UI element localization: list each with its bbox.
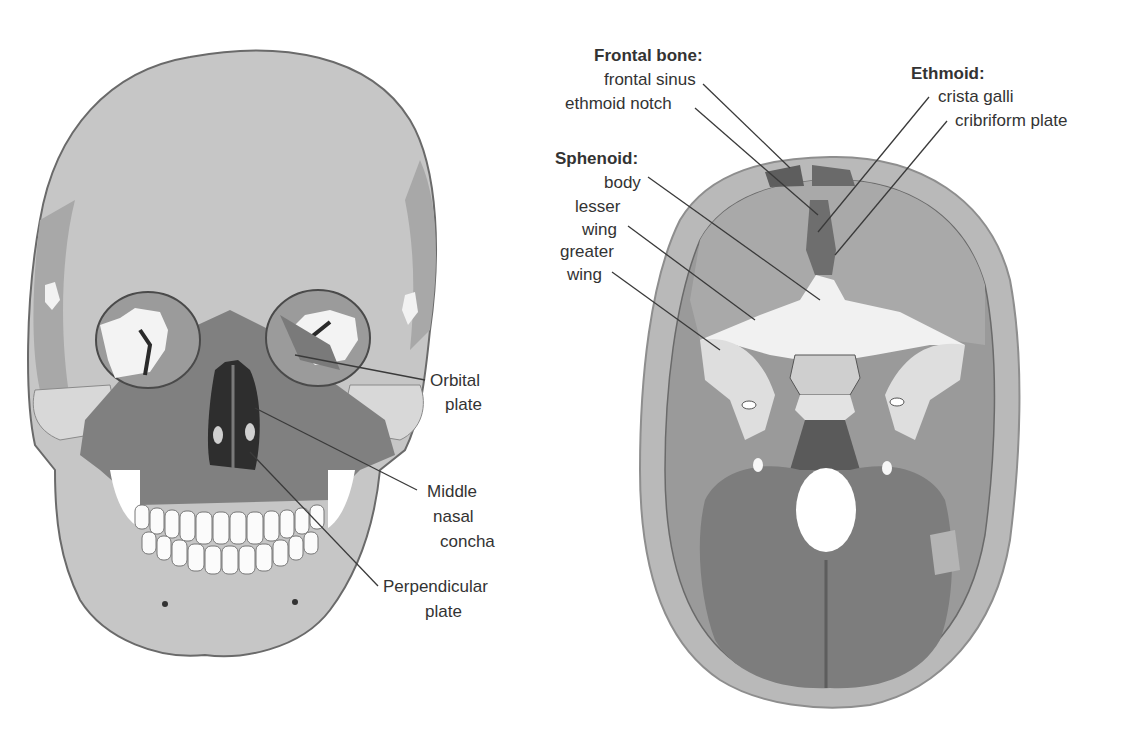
label-ethmoid-notch: ethmoid notch	[565, 94, 672, 113]
label-frontal-sinus: frontal sinus	[604, 70, 696, 89]
label-lesser-wing-2: wing	[581, 220, 617, 239]
anatomy-figure: Orbital plate Middle nasal concha Perpen…	[0, 0, 1124, 733]
label-orbital-plate: Orbital plate	[430, 371, 485, 414]
label-perpendicular-plate: Perpendicular plate	[383, 577, 493, 621]
header-sphenoid: Sphenoid:	[555, 149, 638, 168]
header-ethmoid: Ethmoid:	[911, 64, 985, 83]
label-crista-galli: crista galli	[938, 87, 1014, 106]
caption-cutoff	[0, 0, 1124, 3]
cranial-floor-illustration	[640, 157, 1019, 708]
label-cribriform-plate: cribriform plate	[955, 111, 1067, 130]
header-frontal-bone: Frontal bone:	[594, 46, 703, 65]
label-middle-nasal-concha: Middle nasal concha	[427, 482, 495, 551]
anterior-skull-illustration	[28, 51, 436, 657]
label-greater-wing-1: greater	[560, 242, 614, 261]
label-sphenoid-body: body	[604, 173, 641, 192]
label-greater-wing-2: wing	[566, 265, 602, 284]
label-lesser-wing-1: lesser	[575, 197, 621, 216]
